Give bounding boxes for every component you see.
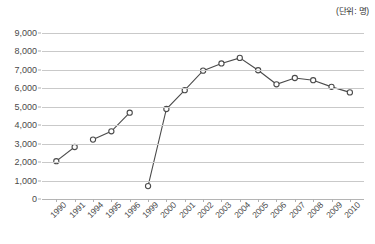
x-tick-label: 2001 bbox=[177, 200, 197, 220]
data-point-marker bbox=[311, 78, 316, 83]
x-tick-mark bbox=[258, 199, 259, 202]
series-line bbox=[56, 147, 74, 161]
gridline bbox=[42, 144, 364, 145]
x-tick-mark bbox=[130, 199, 131, 202]
gridline bbox=[42, 88, 364, 89]
x-tick-label: 1990 bbox=[48, 200, 68, 220]
y-tick-label: 9,000 bbox=[14, 28, 37, 38]
y-tick-mark bbox=[38, 88, 41, 89]
y-tick-label: 2,000 bbox=[14, 157, 37, 167]
gridline bbox=[42, 162, 364, 163]
data-point-marker bbox=[347, 90, 352, 95]
x-tick-label: 2006 bbox=[269, 200, 289, 220]
y-tick-mark bbox=[38, 106, 41, 107]
x-tick-mark bbox=[350, 199, 351, 202]
x-tick-label: 1999 bbox=[140, 200, 160, 220]
data-point-marker bbox=[145, 183, 150, 188]
y-tick-label: 4,000 bbox=[14, 120, 37, 130]
data-point-marker bbox=[292, 75, 297, 80]
x-tick-label: 2003 bbox=[214, 200, 234, 220]
unit-note-label: (단위: 명) bbox=[336, 4, 369, 16]
x-tick-mark bbox=[313, 199, 314, 202]
x-tick-label: 2004 bbox=[232, 200, 252, 220]
y-tick-mark bbox=[38, 69, 41, 70]
y-tick-label: 3,000 bbox=[14, 139, 37, 149]
x-tick-mark bbox=[185, 199, 186, 202]
data-point-marker bbox=[90, 137, 95, 142]
data-point-marker bbox=[72, 144, 77, 149]
y-tick-label: 8,000 bbox=[14, 46, 37, 56]
x-tick-mark bbox=[148, 199, 149, 202]
x-tick-mark bbox=[240, 199, 241, 202]
gridline bbox=[42, 33, 364, 34]
y-tick-label: 1,000 bbox=[14, 176, 37, 186]
y-tick-label: 7,000 bbox=[14, 65, 37, 75]
y-tick-label: 0 bbox=[32, 194, 37, 204]
y-tick-mark bbox=[38, 180, 41, 181]
gridline bbox=[42, 181, 364, 182]
data-point-marker bbox=[219, 61, 224, 66]
line-chart: (단위: 명) 9,0008,0007,0006,0005,0004,0003,… bbox=[0, 0, 375, 244]
x-tick-mark bbox=[93, 199, 94, 202]
x-tick-label: 1994 bbox=[85, 200, 105, 220]
y-tick-label: 6,000 bbox=[14, 83, 37, 93]
x-tick-label: 2007 bbox=[287, 200, 307, 220]
x-tick-label: 2008 bbox=[305, 200, 325, 220]
gridline bbox=[42, 51, 364, 52]
y-tick-mark bbox=[38, 125, 41, 126]
x-tick-label: 1995 bbox=[104, 200, 124, 220]
x-axis-labels: 1990199119941995199619992000200120022003… bbox=[42, 200, 364, 244]
x-tick-label: 1996 bbox=[122, 200, 142, 220]
data-point-marker bbox=[127, 110, 132, 115]
x-tick-mark bbox=[276, 199, 277, 202]
y-tick-mark bbox=[38, 199, 41, 200]
x-tick-label: 2005 bbox=[250, 200, 270, 220]
x-tick-label: 2002 bbox=[195, 200, 215, 220]
x-tick-mark bbox=[111, 199, 112, 202]
x-tick-label: 2009 bbox=[324, 200, 344, 220]
plot-area: 9,0008,0007,0006,0005,0004,0003,0002,000… bbox=[42, 33, 364, 199]
x-tick-mark bbox=[295, 199, 296, 202]
data-point-marker bbox=[109, 129, 114, 134]
y-tick-label: 5,000 bbox=[14, 102, 37, 112]
x-tick-mark bbox=[332, 199, 333, 202]
y-tick-mark bbox=[38, 143, 41, 144]
data-point-marker bbox=[274, 82, 279, 87]
x-tick-mark bbox=[75, 199, 76, 202]
x-tick-mark bbox=[56, 199, 57, 202]
series-line bbox=[148, 58, 350, 186]
x-tick-label: 2010 bbox=[342, 200, 362, 220]
x-tick-label: 1991 bbox=[67, 200, 87, 220]
gridline bbox=[42, 125, 364, 126]
data-point-marker bbox=[237, 55, 242, 60]
x-tick-label: 2000 bbox=[159, 200, 179, 220]
y-tick-mark bbox=[38, 162, 41, 163]
gridline bbox=[42, 70, 364, 71]
y-tick-mark bbox=[38, 51, 41, 52]
x-tick-mark bbox=[221, 199, 222, 202]
series-overlay bbox=[42, 33, 364, 199]
y-tick-mark bbox=[38, 33, 41, 34]
x-tick-mark bbox=[166, 199, 167, 202]
gridline bbox=[42, 107, 364, 108]
x-tick-mark bbox=[203, 199, 204, 202]
